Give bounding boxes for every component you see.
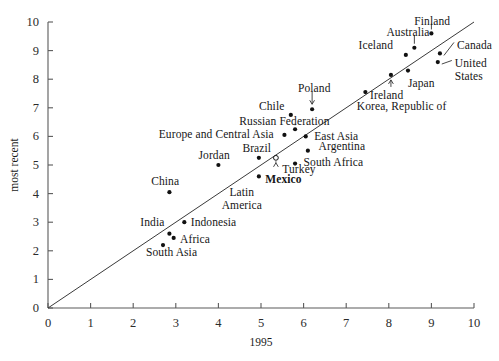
data-point (429, 31, 433, 35)
y-tick-label: 0 (33, 301, 39, 316)
point-label: Australia (386, 26, 429, 38)
y-tick-label: 9 (33, 43, 39, 58)
x-tick-label: 9 (428, 316, 434, 331)
point-label: Jordan (198, 149, 229, 161)
point-label: Ireland (370, 89, 403, 101)
x-tick-label: 1 (87, 316, 93, 331)
point-label: United (455, 57, 487, 69)
x-tick-label: 5 (258, 316, 264, 331)
point-label: Brazil (242, 142, 271, 154)
point-label: Korea, Republic of (357, 100, 447, 112)
data-point (282, 133, 286, 137)
x-tick-label: 3 (173, 316, 179, 331)
scatter-plot-figure: 012345678910012345678910 FinlandAustrali… (0, 0, 499, 361)
point-label: America (222, 199, 262, 211)
y-tick-label: 7 (33, 100, 39, 115)
point-label: India (140, 216, 164, 228)
point-label: Mexico (265, 173, 301, 185)
y-tick-label: 3 (33, 215, 39, 230)
x-tick-label: 8 (386, 316, 392, 331)
point-label: Argentina (319, 140, 366, 152)
y-tick-label: 1 (33, 272, 39, 287)
y-axis-title: most recent (8, 138, 20, 191)
data-point (310, 107, 314, 111)
data-point (306, 149, 310, 153)
data-point (293, 127, 297, 131)
y-tick-label: 4 (33, 186, 39, 201)
point-label: States (455, 70, 483, 82)
data-point (412, 46, 416, 50)
data-point (404, 53, 408, 57)
y-tick-label: 8 (33, 72, 39, 87)
point-label: Finland (414, 15, 450, 27)
point-label: Europe and Central Asia (159, 128, 274, 140)
point-label: South Asia (146, 246, 197, 258)
x-tick-label: 4 (215, 316, 221, 331)
data-point (406, 69, 410, 73)
point-label: Africa (180, 233, 210, 245)
reference-line (48, 22, 474, 308)
y-tick-label: 5 (33, 158, 39, 173)
point-label: Latin (229, 186, 254, 198)
plot-canvas (0, 0, 499, 361)
point-label: Japan (408, 77, 435, 89)
point-label: Indonesia (191, 216, 237, 228)
data-point-open (274, 155, 279, 160)
data-point (167, 232, 171, 236)
data-point (438, 51, 442, 55)
point-label: Poland (298, 82, 331, 94)
data-point (216, 163, 220, 167)
x-tick-label: 6 (300, 316, 306, 331)
x-axis-title: 1995 (250, 336, 273, 348)
point-label: Iceland (359, 39, 394, 51)
y-tick-label: 10 (27, 15, 40, 30)
y-tick-label: 2 (33, 243, 39, 258)
data-point (182, 220, 186, 224)
data-point (304, 134, 308, 138)
point-label: Canada (457, 39, 492, 51)
data-point (172, 236, 176, 240)
data-point (436, 60, 440, 64)
data-point (257, 174, 261, 178)
point-label: Russian Federation (239, 115, 329, 127)
data-point (389, 73, 393, 77)
x-tick-label: 2 (130, 316, 136, 331)
x-tick-label: 0 (45, 316, 51, 331)
data-point (167, 190, 171, 194)
x-tick-label: 10 (468, 316, 481, 331)
point-label: Chile (259, 100, 284, 112)
x-tick-label: 7 (343, 316, 349, 331)
data-point (257, 156, 261, 160)
point-label: China (151, 175, 179, 187)
data-point (363, 90, 367, 94)
y-tick-label: 6 (33, 129, 39, 144)
